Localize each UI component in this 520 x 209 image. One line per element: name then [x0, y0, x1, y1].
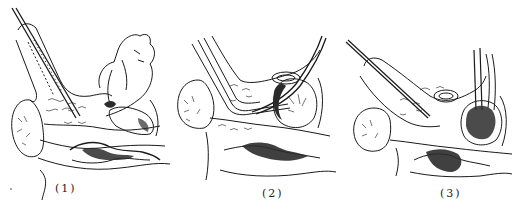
panel-2-label: (2)	[262, 187, 284, 200]
panel-3: (3)	[340, 0, 520, 209]
panel-1-label: (1)	[55, 182, 77, 195]
panel-3-label: (3)	[440, 187, 462, 200]
panel-3-drawing	[340, 0, 520, 209]
panel-1: (1)	[0, 0, 175, 209]
speck	[10, 188, 12, 190]
panel-2: (2)	[170, 0, 345, 209]
anatomical-illustration-figure: (1)	[0, 0, 520, 209]
panel-2-drawing	[170, 0, 345, 209]
panel-1-drawing	[0, 0, 175, 209]
